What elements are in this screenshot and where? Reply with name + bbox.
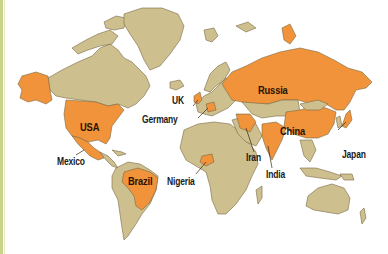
- label-iran: Iran: [246, 152, 261, 163]
- land-arctic-islands-2: [104, 16, 126, 30]
- land-korea: [336, 116, 342, 128]
- land-png: [340, 174, 354, 180]
- land-indonesia: [300, 168, 342, 180]
- land-caribbean: [112, 150, 126, 156]
- land-madagascar: [256, 186, 262, 204]
- land-australia: [306, 184, 350, 214]
- land-central-america: [100, 152, 118, 168]
- label-usa: USA: [80, 121, 99, 133]
- label-mexico: Mexico: [57, 156, 85, 167]
- land-canada: [48, 44, 150, 108]
- label-germany: Germany: [142, 114, 178, 125]
- label-china: China: [280, 125, 305, 137]
- label-japan: Japan: [342, 149, 366, 160]
- land-se-asia: [300, 140, 316, 162]
- label-russia: Russia: [258, 84, 288, 96]
- land-new-zealand: [360, 208, 366, 224]
- world-map: Russia USA Brazil China UK Germany Mexic…: [0, 0, 388, 254]
- country-japan: [342, 110, 352, 128]
- label-india: India: [266, 169, 285, 180]
- land-iceland: [170, 80, 184, 90]
- land-greenland: [124, 8, 184, 70]
- country-germany: [206, 102, 216, 112]
- label-brazil: Brazil: [128, 175, 152, 187]
- land-svalbard: [204, 28, 218, 42]
- map-graphic: [0, 0, 388, 254]
- label-uk: UK: [172, 95, 184, 106]
- land-novaya-zemlya: [282, 24, 296, 44]
- land-arctic-russia: [236, 22, 256, 32]
- label-nigeria: Nigeria: [167, 176, 195, 187]
- country-alaska: [18, 72, 52, 104]
